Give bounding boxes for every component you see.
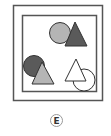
option-label-badge[interactable]: E bbox=[50, 114, 63, 127]
puzzle-option-figure: E bbox=[0, 0, 111, 136]
option-label: E bbox=[53, 116, 59, 126]
